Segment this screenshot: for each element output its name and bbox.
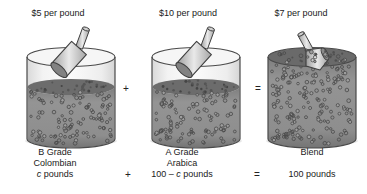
label-b-grade: B Grade Colombian c pounds	[0, 147, 113, 180]
grade-line: B Grade	[0, 147, 113, 158]
jar-b-grade-illustration	[23, 24, 119, 150]
amount-line: 100 pounds	[254, 169, 367, 180]
bean-mass	[28, 87, 115, 148]
label-a-grade: A Grade Arabica 100 – c pounds	[124, 147, 240, 180]
price-label-blend: $7 per pound	[246, 8, 356, 18]
grade-line: A Grade	[124, 147, 240, 158]
plus-operator-mid: +	[119, 83, 133, 94]
grade-line: Blend	[254, 147, 367, 158]
variety-line	[254, 158, 367, 169]
equals-operator-bottom: =	[250, 169, 264, 180]
coffee-mixture-diagram: $5 per pound $10 per pound $7 per pound	[0, 0, 367, 194]
variety-line: Colombian	[0, 158, 113, 169]
equals-operator-mid: =	[251, 83, 265, 94]
plus-operator-bottom: +	[121, 169, 135, 180]
price-label-b-grade: $5 per pound	[3, 8, 113, 18]
price-label-a-grade: $10 per pound	[133, 8, 243, 18]
variety-line: Arabica	[124, 158, 240, 169]
amount-line: c pounds	[0, 169, 113, 180]
label-blend: Blend 100 pounds	[254, 147, 367, 180]
jar-blend-illustration	[264, 24, 360, 150]
amount-line: 100 – c pounds	[124, 169, 240, 180]
jar-a-grade-illustration	[148, 24, 244, 150]
